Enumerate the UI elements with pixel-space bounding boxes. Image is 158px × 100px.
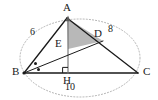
length-label-BC: 10: [65, 82, 75, 92]
geometry-canvas: [0, 0, 158, 100]
vertex-label-C: C: [143, 66, 150, 77]
angle-dot-lower-B-icon: [37, 68, 40, 71]
vertex-label-B: B: [12, 66, 19, 77]
vertex-label-E: E: [55, 38, 62, 49]
length-label-AB: 6: [30, 27, 35, 37]
angle-dot-upper-B-icon: [34, 62, 37, 65]
geometry-figure: A B C D E H 6 8 10: [0, 0, 158, 100]
vertex-label-D: D: [94, 28, 102, 39]
vertex-label-A: A: [63, 2, 71, 13]
length-label-AC: 8: [108, 24, 113, 34]
vertex-dot-B: [22, 71, 25, 74]
right-angle-mark-H-icon: [63, 67, 68, 73]
